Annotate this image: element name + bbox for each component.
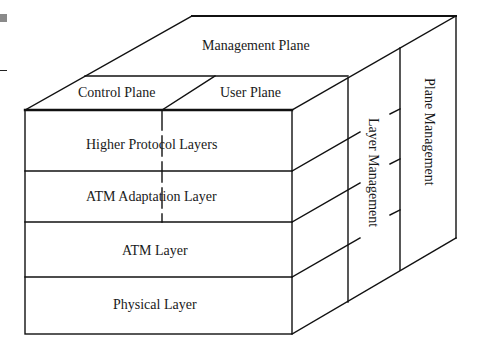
user-plane-label: User Plane <box>220 86 281 100</box>
control-plane-label: Control Plane <box>78 86 155 100</box>
management-plane-label: Management Plane <box>202 39 310 53</box>
layer-atm: ATM Layer <box>122 244 188 258</box>
layer-physical: Physical Layer <box>113 298 197 312</box>
plane-management-label: Plane Management <box>422 78 436 186</box>
layer-aal: ATM Adaptation Layer <box>86 190 217 204</box>
protocol-reference-model-cube: Management Plane Control Plane User Plan… <box>0 0 480 350</box>
layer-higher-protocol: Higher Protocol Layers <box>86 138 217 152</box>
layer-management-label: Layer Management <box>366 118 380 227</box>
